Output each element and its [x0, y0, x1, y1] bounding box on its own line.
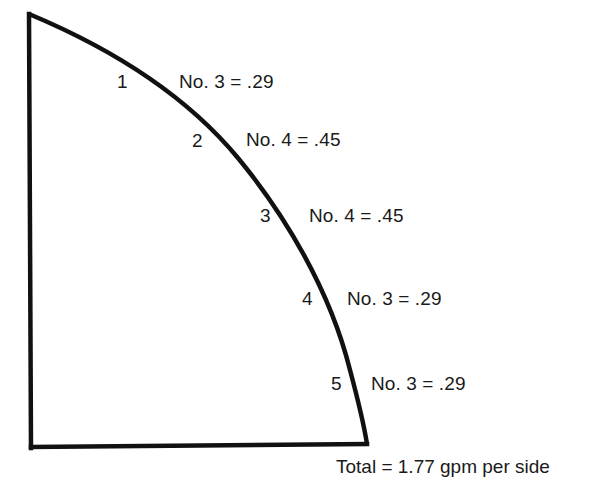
nozzle-position-2: 2: [192, 131, 203, 150]
quarter-circle-outline: [0, 0, 615, 489]
nozzle-label-3: No. 4 = .45: [309, 206, 404, 225]
left-edge: [29, 14, 31, 448]
nozzle-position-5: 5: [331, 374, 342, 393]
nozzle-position-1: 1: [117, 72, 128, 91]
nozzle-position-3: 3: [260, 206, 271, 225]
total-flow-label: Total = 1.77 gpm per side: [336, 457, 550, 476]
bottom-edge: [31, 444, 367, 447]
nozzle-label-5: No. 3 = .29: [371, 374, 466, 393]
nozzle-label-4: No. 3 = .29: [347, 289, 442, 308]
nozzle-label-2: No. 4 = .45: [246, 130, 341, 149]
nozzle-layout-diagram: 1 2 3 4 5 No. 3 = .29 No. 4 = .45 No. 4 …: [0, 0, 615, 489]
nozzle-position-4: 4: [302, 289, 313, 308]
nozzle-label-1: No. 3 = .29: [179, 72, 274, 91]
